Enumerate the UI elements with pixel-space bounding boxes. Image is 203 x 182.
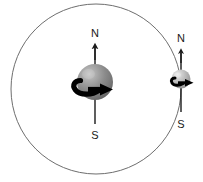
primary-north-label: N [91, 27, 99, 39]
secondary-north-label: N [177, 32, 185, 44]
primary-south-label: S [91, 129, 98, 141]
secondary-body-group: N S [171, 32, 193, 130]
orbital-rotation-diagram: N S N S [0, 0, 203, 182]
planet-highlight [82, 69, 95, 79]
secondary-south-label: S [177, 118, 184, 130]
diagram-canvas: N S N S [0, 0, 203, 182]
primary-body-group: N S [74, 27, 113, 141]
